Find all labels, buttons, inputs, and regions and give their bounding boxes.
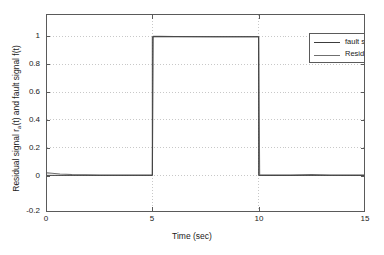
y-tickmark-right-0.6	[361, 92, 365, 93]
y-tickmark-right-0.2	[361, 148, 365, 149]
plot-area: fault signal f(t) Residual signal ra(t)	[46, 14, 365, 212]
x-tick-label-5: 5	[142, 215, 162, 223]
x-tickmark-top-5	[152, 14, 153, 19]
y-axis-label-lead: Residual signal r	[11, 129, 21, 192]
y-tickmark-0	[46, 176, 50, 177]
y-tickmark-0.8	[46, 64, 50, 65]
y-tickmark-0.6	[46, 92, 50, 93]
y-tickmark-right-0.4	[361, 120, 365, 121]
x-tickmark-10	[259, 207, 260, 212]
legend-line-sample-fault	[314, 42, 340, 43]
x-tickmark-15	[364, 207, 365, 212]
x-tick-label-15: 15	[355, 215, 375, 223]
x-tickmark-5	[152, 207, 153, 212]
legend-label-residual-lead: Residual signal r	[345, 49, 365, 58]
y-tickmark-1	[46, 36, 50, 37]
y-tickmark-right-0	[361, 176, 365, 177]
x-tickmark-top-10	[259, 14, 260, 19]
legend-box: fault signal f(t) Residual signal ra(t)	[309, 33, 365, 63]
legend-entry-residual-signal: Residual signal ra(t)	[310, 48, 365, 62]
y-tickmark-right-0.8	[361, 64, 365, 65]
legend-entry-fault-signal: fault signal f(t)	[310, 35, 365, 49]
y-axis-label-subscript: a	[16, 126, 22, 129]
x-tick-label-10: 10	[249, 215, 269, 223]
y-tickmark-0.4	[46, 120, 50, 121]
legend-label-fault-signal: fault signal f(t)	[345, 38, 365, 46]
legend-label-residual-signal: Residual signal ra(t)	[345, 50, 365, 60]
y-tickmark-0.2	[46, 148, 50, 149]
x-tick-label-0: 0	[36, 215, 56, 223]
legend-line-sample-residual	[314, 55, 340, 56]
x-axis-label: Time (sec)	[0, 231, 384, 241]
figure-canvas: fault signal f(t) Residual signal ra(t) …	[0, 0, 384, 255]
y-axis-label: Residual signal ra(t) and fault signal f…	[11, 19, 22, 219]
x-tickmark-0	[46, 207, 47, 212]
y-axis-label-trail: (t) and fault signal f(t)	[11, 45, 21, 125]
